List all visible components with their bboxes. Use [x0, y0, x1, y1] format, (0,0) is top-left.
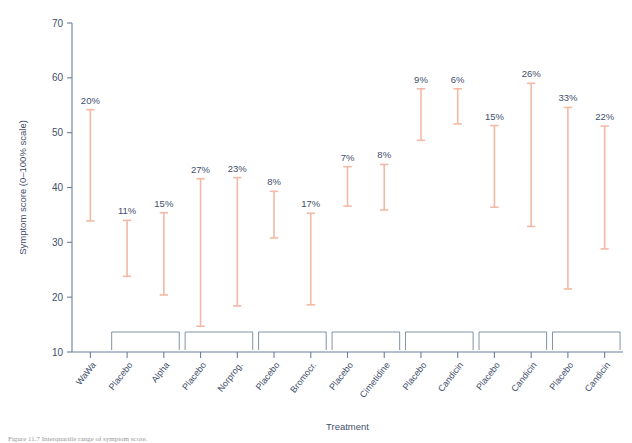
y-tick-label: 70	[52, 18, 64, 29]
group-bracket	[112, 332, 180, 350]
error-bar	[527, 83, 535, 226]
figure-caption: Figure 11.7 Interquartile range of sympt…	[8, 435, 147, 443]
error-bar	[564, 107, 572, 288]
error-bar-value-label: 8%	[377, 149, 391, 160]
error-bar	[233, 178, 241, 306]
error-bar	[196, 179, 204, 327]
error-bar-value-label: 15%	[154, 198, 174, 209]
x-tick-label: Placebo	[401, 360, 429, 392]
error-bar-value-label: 26%	[522, 68, 542, 79]
group-bracket	[185, 332, 253, 350]
y-tick-label: 10	[52, 347, 64, 358]
group-bracket	[552, 332, 620, 350]
group-bracket	[259, 332, 327, 350]
error-bar-value-label: 9%	[414, 74, 428, 85]
y-tick-label: 40	[52, 182, 64, 193]
error-bar-value-label: 11%	[118, 205, 137, 216]
x-tick-label: Alpha	[149, 360, 171, 384]
group-bracket	[332, 332, 400, 350]
x-tick-label: Placebo	[180, 360, 208, 392]
error-bar	[417, 89, 425, 141]
error-bar-value-label: 7%	[341, 152, 355, 163]
error-bar	[160, 213, 168, 295]
x-tick-label: Cimetidine	[358, 360, 392, 400]
error-bar	[343, 167, 351, 206]
error-bar	[600, 126, 608, 249]
y-tick-label: 30	[52, 237, 64, 248]
x-tick-label: Candicin	[583, 360, 612, 394]
y-axis-title: Symptom score (0–100% scale)	[17, 120, 28, 255]
error-bar	[307, 213, 315, 305]
y-tick-label: 60	[52, 72, 64, 83]
y-tick-label: 50	[52, 127, 64, 138]
error-bar-value-label: 6%	[451, 74, 465, 85]
group-bracket	[406, 332, 474, 350]
y-tick-label: 20	[52, 292, 64, 303]
x-tick-label: Placebo	[474, 360, 502, 392]
x-tick-label: Norprog.	[215, 360, 244, 394]
x-tick-label: Placebo	[327, 360, 355, 392]
error-bar-value-label: 22%	[595, 111, 615, 122]
x-tick-label: Candicin	[509, 360, 538, 394]
x-tick-label: Bromocr.	[288, 360, 318, 395]
x-tick-label: Placebo	[548, 360, 576, 392]
error-bar	[454, 89, 462, 124]
error-bar-value-label: 20%	[81, 95, 101, 106]
error-bar-value-label: 15%	[485, 111, 505, 122]
error-bar	[123, 220, 131, 276]
error-bar-value-label: 17%	[301, 198, 321, 209]
error-bar	[86, 110, 94, 221]
error-bar	[490, 126, 498, 208]
error-bar	[270, 191, 278, 238]
x-tick-label: Placebo	[254, 360, 282, 392]
error-bar-value-label: 8%	[267, 176, 281, 187]
x-tick-label: Candicin	[436, 360, 465, 394]
error-bar-value-label: 23%	[228, 163, 248, 174]
x-tick-label: WaWa	[74, 360, 98, 387]
error-bar	[380, 164, 388, 210]
error-bar-value-label: 33%	[558, 92, 578, 103]
group-bracket	[479, 332, 547, 350]
x-axis-title: Treatment	[326, 421, 369, 432]
x-tick-label: Placebo	[107, 360, 135, 392]
error-bar-value-label: 27%	[191, 164, 211, 175]
